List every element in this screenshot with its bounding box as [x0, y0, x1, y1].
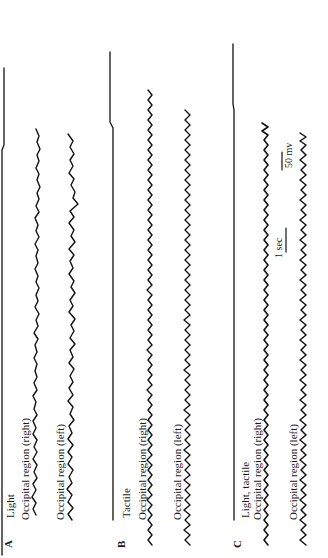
stimulus-label-c: Light, tactile — [240, 462, 251, 518]
trace-b-left — [184, 110, 190, 545]
stimulus-label-b: Tactile — [121, 488, 132, 518]
trace-label-b-right: Occipital region (right) — [137, 418, 148, 520]
trace-label-c-left: Occipital region (left) — [288, 424, 299, 520]
trace-label-b-left: Occipital region (left) — [172, 424, 183, 520]
stimulus-marker-a — [2, 68, 4, 555]
panel-letter-a: A — [3, 540, 14, 548]
stimulus-label-a: Light — [5, 494, 16, 518]
trace-label-c-right: Occipital region (right) — [252, 418, 263, 520]
panel-letter-b: B — [116, 541, 127, 548]
time-scale-label: 1 sec — [274, 238, 284, 258]
trace-label-a-left: Occipital region (left) — [55, 424, 66, 520]
trace-a-left — [67, 134, 78, 520]
trace-label-a-right: Occipital region (right) — [20, 418, 31, 520]
trace-a-right — [32, 129, 40, 515]
eeg-traces-canvas — [0, 0, 328, 558]
stimulus-marker-c — [233, 44, 234, 520]
stimulus-marker-b — [110, 52, 113, 520]
amplitude-scale-label: 50 mv — [284, 143, 294, 168]
trace-c-left — [300, 133, 306, 545]
panel-letter-c: C — [232, 540, 243, 548]
